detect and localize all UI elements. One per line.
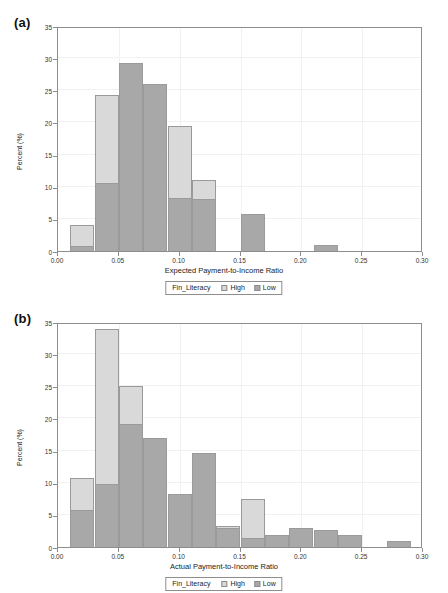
y-axis-tick-mark xyxy=(53,27,57,28)
histogram-bar-low xyxy=(387,541,411,547)
legend-b: Fin_Literacy High Low xyxy=(165,577,282,591)
gridline-vertical xyxy=(362,324,363,547)
figure-panel-a: (a) 051015202530350.000.050.100.150.200.… xyxy=(0,0,448,297)
legend-title-a: Fin_Literacy xyxy=(172,283,210,292)
x-axis-tick-label: 0.00 xyxy=(42,257,72,265)
histogram-bar-low xyxy=(314,530,338,547)
y-axis-tick-mark xyxy=(53,220,57,221)
x-axis-tick-label: 0.10 xyxy=(164,553,194,561)
x-axis-tick-mark xyxy=(179,548,180,552)
histogram-bar-low xyxy=(95,183,119,251)
legend-label-high-a: High xyxy=(230,283,244,292)
x-axis-tick-mark xyxy=(300,252,301,256)
legend-swatch-low-icon xyxy=(254,285,260,291)
gridline-horizontal xyxy=(58,57,421,58)
x-axis-tick-label: 0.30 xyxy=(407,553,437,561)
y-axis-tick-label: 5 xyxy=(30,512,52,519)
y-axis-tick-label: 35 xyxy=(30,320,52,327)
panel-a-label: (a) xyxy=(14,15,31,30)
y-axis-tick-label: 20 xyxy=(30,416,52,423)
legend-entry-high-a[interactable]: High xyxy=(221,283,244,292)
x-axis-tick-mark xyxy=(422,548,423,552)
x-axis-tick-mark xyxy=(118,548,119,552)
y-axis-tick-mark xyxy=(53,91,57,92)
panel-b-label: (b) xyxy=(14,311,31,326)
y-axis-tick-label: 5 xyxy=(30,216,52,223)
y-axis-tick-label: 30 xyxy=(30,56,52,63)
x-axis-tick-label: 0.25 xyxy=(346,553,376,561)
x-axis-tick-mark xyxy=(118,252,119,256)
x-axis-tick-mark xyxy=(179,252,180,256)
x-axis-title-b: Actual Payment-to-Income Ratio xyxy=(0,562,448,571)
legend-label-low-a: Low xyxy=(263,283,276,292)
y-axis-tick-mark xyxy=(53,156,57,157)
x-axis-tick-mark xyxy=(300,548,301,552)
y-axis-tick-mark xyxy=(53,452,57,453)
x-axis-tick-mark xyxy=(361,252,362,256)
gridline-vertical xyxy=(362,28,363,251)
x-axis-tick-mark xyxy=(57,548,58,552)
y-axis-tick-label: 30 xyxy=(30,352,52,359)
y-axis-tick-label: 0 xyxy=(30,249,52,256)
x-axis-tick-label: 0.15 xyxy=(225,257,255,265)
legend-entry-low-a[interactable]: Low xyxy=(254,283,276,292)
histogram-bar-low xyxy=(241,538,265,547)
plot-area-a xyxy=(57,27,422,252)
y-axis-tick-mark xyxy=(53,323,57,324)
gridline-vertical xyxy=(301,324,302,547)
x-axis-tick-label: 0.20 xyxy=(285,257,315,265)
histogram-bar-low xyxy=(338,535,362,547)
y-axis-tick-label: 15 xyxy=(30,448,52,455)
y-axis-tick-mark xyxy=(53,355,57,356)
y-axis-tick-mark xyxy=(53,123,57,124)
histogram-bar-low xyxy=(265,535,289,547)
y-axis-tick-mark xyxy=(53,188,57,189)
legend-title-b: Fin_Literacy xyxy=(172,579,210,588)
gridline-horizontal xyxy=(58,89,421,90)
x-axis-tick-mark xyxy=(240,548,241,552)
figure-panel-b: (b) 051015202530350.000.050.100.150.200.… xyxy=(0,296,448,593)
histogram-bar-low xyxy=(143,438,167,547)
histogram-bar-low xyxy=(289,528,313,547)
y-axis-tick-mark xyxy=(53,516,57,517)
x-axis-tick-label: 0.00 xyxy=(42,553,72,561)
histogram-bar-low xyxy=(119,63,143,251)
histogram-bar-low xyxy=(241,214,265,251)
y-axis-tick-mark xyxy=(53,484,57,485)
histogram-bar-low xyxy=(95,484,119,547)
x-axis-tick-mark xyxy=(361,548,362,552)
y-axis-tick-label: 10 xyxy=(30,480,52,487)
legend-entry-high-b[interactable]: High xyxy=(221,579,244,588)
y-axis-tick-mark xyxy=(53,387,57,388)
histogram-bar-low xyxy=(143,84,167,251)
histogram-bar-low xyxy=(216,528,240,547)
legend-entry-low-b[interactable]: Low xyxy=(254,579,276,588)
legend-swatch-high-icon xyxy=(221,581,227,587)
x-axis-title-a: Expected Payment-to-Income Ratio xyxy=(0,266,448,275)
y-axis-title-b: Percent (%) xyxy=(16,429,23,466)
y-axis-tick-label: 10 xyxy=(30,184,52,191)
y-axis-title-a: Percent (%) xyxy=(16,133,23,170)
legend-label-high-b: High xyxy=(230,579,244,588)
x-axis-tick-label: 0.30 xyxy=(407,257,437,265)
x-axis-tick-label: 0.05 xyxy=(103,553,133,561)
histogram-bar-low xyxy=(192,199,216,251)
x-axis-tick-mark xyxy=(57,252,58,256)
histogram-bar-low xyxy=(70,246,94,251)
y-axis-tick-label: 35 xyxy=(30,24,52,31)
legend-swatch-low-icon xyxy=(254,581,260,587)
legend-label-low-b: Low xyxy=(263,579,276,588)
x-axis-tick-mark xyxy=(422,252,423,256)
y-axis-tick-label: 15 xyxy=(30,152,52,159)
y-axis-tick-label: 25 xyxy=(30,384,52,391)
histogram-bar-low xyxy=(192,453,216,547)
plot-area-b xyxy=(57,323,422,548)
y-axis-tick-label: 20 xyxy=(30,120,52,127)
x-axis-tick-label: 0.25 xyxy=(346,257,376,265)
x-axis-tick-mark xyxy=(240,252,241,256)
y-axis-tick-label: 25 xyxy=(30,88,52,95)
x-axis-tick-label: 0.05 xyxy=(103,257,133,265)
histogram-bar-low xyxy=(168,494,192,547)
histogram-bar-low xyxy=(168,198,192,251)
histogram-bar-low xyxy=(119,424,143,547)
